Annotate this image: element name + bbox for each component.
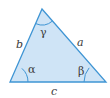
angle-label-gamma: γ (40, 26, 47, 39)
angle-label-beta: β (78, 65, 84, 78)
side-label-c: c (51, 85, 57, 98)
side-label-a: a (77, 36, 84, 49)
side-label-b: b (16, 38, 23, 51)
angle-label-alpha: α (28, 63, 36, 76)
triangle-diagram: b a c γ α β (0, 0, 110, 98)
